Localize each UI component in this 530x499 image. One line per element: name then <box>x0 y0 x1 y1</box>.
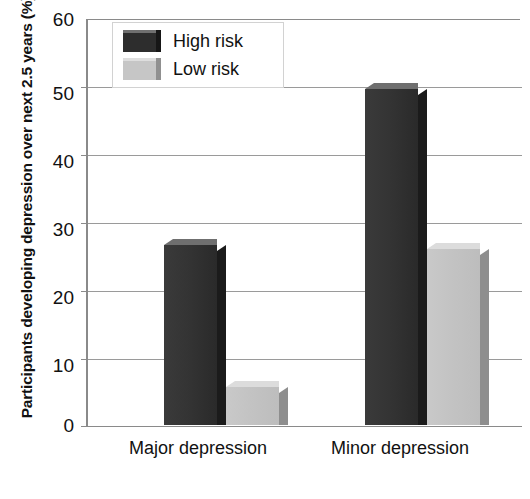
y-tick-mark-0 <box>81 426 88 427</box>
axis-baseline-0 <box>88 426 522 427</box>
y-tick-label-40: 40 <box>53 152 74 171</box>
y-tick-mark-30 <box>81 223 88 224</box>
x-category-label-minor-depression: Minor depression <box>320 438 480 459</box>
legend-item-high-risk[interactable]: High risk <box>123 27 243 55</box>
y-tick-label-10: 10 <box>53 356 74 375</box>
bar-front-face <box>427 249 480 425</box>
y-tick-mark-40 <box>81 155 88 156</box>
bar-chart-figure: Participants developing depression over … <box>0 0 530 499</box>
bar-side-face <box>418 89 427 425</box>
y-tick-label-20: 20 <box>53 288 74 307</box>
y-tick-label-50: 50 <box>53 84 74 103</box>
y-tick-mark-10 <box>81 359 88 360</box>
legend-label-low-risk: Low risk <box>173 59 239 80</box>
y-tick-mark-20 <box>81 291 88 292</box>
legend-label-high-risk: High risk <box>173 31 243 52</box>
y-tick-mark-50 <box>81 87 88 88</box>
bar-side-face <box>217 245 226 425</box>
bar-low-risk-minor-depression[interactable] <box>427 249 480 425</box>
bar-high-risk-major-depression[interactable] <box>164 245 217 425</box>
gridline-30 <box>88 223 522 224</box>
y-tick-label-60: 60 <box>53 10 74 29</box>
bar-front-face <box>365 89 418 425</box>
y-tick-label-30: 30 <box>53 220 74 239</box>
legend: High risk Low risk <box>112 22 284 88</box>
bar-low-risk-major-depression[interactable] <box>226 387 279 425</box>
bar-side-face <box>279 387 288 425</box>
legend-swatch-high-risk <box>123 30 161 52</box>
legend-item-low-risk[interactable]: Low risk <box>123 55 239 83</box>
bar-front-face <box>226 387 279 425</box>
y-axis-tick-labels: 60 50 40 30 20 10 0 <box>0 0 86 499</box>
x-category-label-major-depression: Major depression <box>118 438 278 459</box>
y-tick-label-0: 0 <box>63 416 74 435</box>
legend-swatch-low-risk <box>123 58 161 80</box>
bar-front-face <box>164 245 217 425</box>
bar-side-face <box>480 249 489 425</box>
bar-high-risk-minor-depression[interactable] <box>365 89 418 425</box>
gridline-40 <box>88 155 522 156</box>
